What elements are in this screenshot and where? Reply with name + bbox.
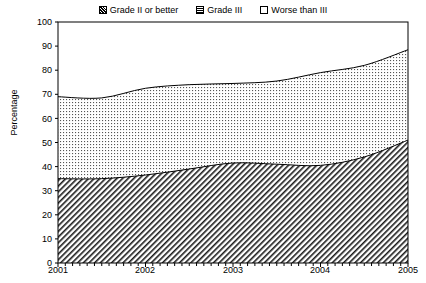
y-tick-label-50: 50 [26,139,52,148]
y-axis-title: Percentage [10,73,19,153]
legend-label: Worse than III [271,6,327,15]
x-tick-label-2002: 2002 [125,266,165,275]
x-tick-label-2005: 2005 [388,266,426,275]
legend-label: Grade III [207,6,242,15]
dots-swatch-icon [196,6,204,14]
legend-item-grade-iii[interactable]: Grade III [196,6,242,15]
chart-legend: Grade II or better Grade III Worse than … [0,3,426,17]
legend-label: Grade II or better [110,6,179,15]
x-tick-label-2004: 2004 [300,266,340,275]
plain-swatch-icon [260,6,268,14]
y-tick-label-80: 80 [26,66,52,75]
y-tick-label-60: 60 [26,115,52,124]
x-tick-label-2003: 2003 [213,266,253,275]
plot-area [0,0,426,283]
y-tick-label-90: 90 [26,42,52,51]
y-tick-label-20: 20 [26,211,52,220]
legend-item-worse-than-iii[interactable]: Worse than III [260,6,327,15]
y-tick-label-30: 30 [26,187,52,196]
legend-item-grade-ii-or-better[interactable]: Grade II or better [99,6,179,15]
hatch-swatch-icon [99,6,107,14]
y-tick-label-100: 100 [26,18,52,27]
stacked-area-chart: Grade II or better Grade III Worse than … [0,0,426,283]
y-tick-label-10: 10 [26,235,52,244]
y-tick-label-40: 40 [26,163,52,172]
y-tick-label-70: 70 [26,90,52,99]
x-tick-label-2001: 2001 [38,266,78,275]
